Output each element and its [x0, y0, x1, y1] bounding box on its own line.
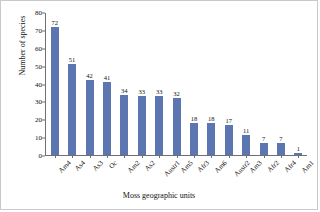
x-label-slot: Am4	[46, 159, 63, 189]
x-tick-mark	[211, 155, 212, 158]
bar-value-label: 7	[262, 135, 265, 142]
y-tick-mark	[42, 30, 45, 31]
bar[interactable]: 18	[190, 123, 198, 155]
bar-slot: 1	[290, 13, 307, 155]
x-tick-mark	[90, 155, 91, 158]
bar-slot: 7	[255, 13, 272, 155]
bar-series: 725142413433333218181711771	[46, 13, 307, 155]
bar[interactable]: 34	[120, 95, 128, 155]
bar-slot: 18	[185, 13, 202, 155]
x-tick-label: Am1	[300, 159, 316, 175]
bar-value-label: 33	[156, 88, 163, 95]
plot-area: 01020304050607080 7251424134333332181817…	[45, 13, 307, 156]
x-label-slot: Am6	[203, 159, 220, 189]
bar[interactable]: 42	[86, 80, 94, 155]
y-tick-label: 50	[35, 63, 42, 71]
x-tick-mark	[298, 155, 299, 158]
bar[interactable]: 51	[68, 64, 76, 155]
x-tick-mark	[281, 155, 282, 158]
x-label-slot: Afr3	[185, 159, 202, 189]
x-axis-title: Moss geographic units	[1, 191, 317, 200]
y-tick-mark	[42, 138, 45, 139]
bar-value-label: 42	[86, 72, 93, 79]
bar[interactable]: 18	[207, 123, 215, 155]
bar[interactable]: 17	[225, 125, 233, 155]
y-tick-mark	[42, 120, 45, 121]
x-axis-tick-labels: Am4As4As3OcAm2As2Austr1Am5Afr3Am6Austr2A…	[46, 159, 307, 189]
x-tick-mark	[72, 155, 73, 158]
x-label-slot: As3	[81, 159, 98, 189]
bar[interactable]: 72	[51, 27, 59, 155]
bar-slot: 72	[46, 13, 63, 155]
y-tick-mark	[42, 102, 45, 103]
bar-value-label: 17	[226, 117, 233, 124]
x-tick-mark	[229, 155, 230, 158]
bar-value-label: 11	[243, 127, 249, 134]
bar[interactable]: 7	[277, 143, 285, 155]
bar-slot: 42	[81, 13, 98, 155]
y-tick-mark	[42, 84, 45, 85]
y-tick-mark	[42, 48, 45, 49]
x-tick-mark	[142, 155, 143, 158]
y-tick-label: 10	[35, 134, 42, 142]
bar-value-label: 34	[121, 87, 128, 94]
bar-value-label: 51	[69, 56, 76, 63]
x-tick-mark	[246, 155, 247, 158]
x-tick-mark	[159, 155, 160, 158]
bar[interactable]: 41	[103, 82, 111, 155]
bar-value-label: 32	[173, 90, 180, 97]
bar-value-label: 18	[208, 115, 215, 122]
x-tick-mark	[264, 155, 265, 158]
x-tick-mark	[55, 155, 56, 158]
bar[interactable]: 33	[138, 96, 146, 155]
x-label-slot: Am2	[116, 159, 133, 189]
bar-slot: 33	[150, 13, 167, 155]
y-tick-mark	[42, 66, 45, 67]
x-label-slot: Afr4	[272, 159, 289, 189]
bar[interactable]: 11	[242, 135, 250, 155]
x-label-slot: Afr2	[255, 159, 272, 189]
bar-slot: 33	[133, 13, 150, 155]
bar-slot: 41	[98, 13, 115, 155]
y-axis-title: Number of species	[18, 0, 27, 101]
x-label-slot: Am5	[168, 159, 185, 189]
bar-value-label: 33	[138, 88, 145, 95]
x-label-slot: As2	[133, 159, 150, 189]
bar-slot: 17	[220, 13, 237, 155]
y-tick-label: 70	[35, 27, 42, 35]
bar-chart-figure: Number of species 01020304050607080 7251…	[0, 0, 318, 210]
x-tick-mark	[107, 155, 108, 158]
x-tick-mark	[124, 155, 125, 158]
y-tick-mark	[42, 156, 45, 157]
y-tick-mark	[42, 13, 45, 14]
bar-value-label: 1	[297, 145, 300, 152]
bar-slot: 51	[63, 13, 80, 155]
bar-slot: 18	[203, 13, 220, 155]
x-label-slot: Austr2	[220, 159, 237, 189]
x-label-slot: As4	[63, 159, 80, 189]
x-label-slot: Am1	[290, 159, 307, 189]
x-label-slot: Austr1	[150, 159, 167, 189]
bar-value-label: 41	[104, 74, 111, 81]
bar-value-label: 18	[191, 115, 198, 122]
bar[interactable]: 33	[155, 96, 163, 155]
x-label-slot: Am3	[237, 159, 254, 189]
y-tick-label: 30	[35, 98, 42, 106]
x-tick-mark	[194, 155, 195, 158]
bar-slot: 34	[116, 13, 133, 155]
bar-slot: 11	[237, 13, 254, 155]
y-tick-label: 40	[35, 81, 42, 89]
bar-slot: 32	[168, 13, 185, 155]
x-tick-mark	[177, 155, 178, 158]
bar-value-label: 72	[51, 19, 58, 26]
bar[interactable]: 7	[260, 143, 268, 155]
y-tick-label: 80	[35, 9, 42, 17]
y-tick-label: 20	[35, 116, 42, 124]
bar[interactable]: 32	[173, 98, 181, 155]
y-tick-label: 60	[35, 45, 42, 53]
bar-value-label: 7	[279, 135, 282, 142]
x-label-slot: Oc	[98, 159, 115, 189]
bar-slot: 7	[272, 13, 289, 155]
